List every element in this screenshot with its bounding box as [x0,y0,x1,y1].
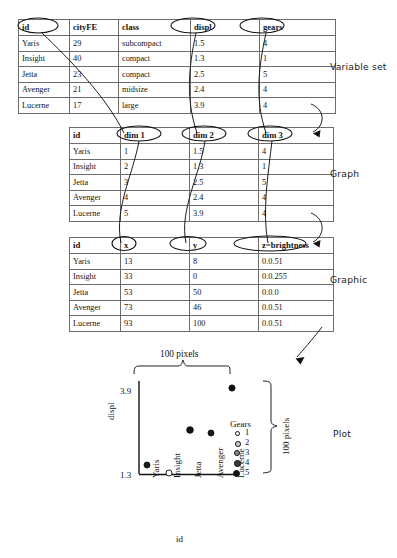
cell-dim2: 3.9 [190,206,259,222]
table-row: Lucerne 17 large 3.9 4 [19,98,336,114]
cell-x: 73 [121,300,190,316]
cell-id: Insight [70,269,121,285]
plot-width-caption: 100 pixels [160,349,198,359]
cell-displ: 1.5 [191,36,260,52]
table-row: Insight 33 0 0.0.255 [70,269,334,285]
cell-dim2: 2.5 [190,175,259,191]
cell-y: 0 [190,269,259,285]
plot-point-yaris [144,462,150,468]
cell-id: Avenger [19,82,70,98]
cell-y: 50 [190,285,259,301]
cell-y: 46 [190,300,259,316]
cell-cityfe: 21 [70,82,119,98]
cell-class: compact [119,51,191,67]
cell-dim1: 2 [121,159,190,175]
cell-dim2: 1.5 [190,144,259,160]
width-brace [134,360,230,374]
column-header-y: y [190,238,259,254]
cell-gears: 4 [260,98,336,114]
cell-dim2: 1.3 [190,159,259,175]
cell-cityfe: 23 [70,67,119,83]
cell-class: midsize [119,82,191,98]
legend-swatch-2 [235,441,241,447]
graph-table: id dim 1 dim 2 dim 3 Yaris 1 1.5 4 Insig… [69,127,334,222]
column-header-cityfe: cityFE [70,20,119,36]
cell-id: Jetta [70,175,121,191]
graphic-table: id x y z=brightness Yaris 13 8 0.0.51 In… [69,237,334,332]
cell-gears: 1 [260,51,336,67]
column-header-dim3: dim 3 [259,128,334,144]
table-row: Yaris 1 1.5 4 [70,144,334,160]
table-row: Lucerne 93 100 0.0.51 [70,316,334,332]
table-header-row: id x y z=brightness [70,238,334,254]
cell-cityfe: 17 [70,98,119,114]
y-axis-tick-low: 1.3 [120,470,131,480]
table-row: Avenger 73 46 0.0.51 [70,300,334,316]
plot-point-lucerne [229,385,235,391]
cell-x: 93 [121,316,190,332]
legend-label-5: 5 [245,467,249,477]
table-header-row: id dim 1 dim 2 dim 3 [70,128,334,144]
cell-x: 13 [121,254,190,270]
cell-dim1: 4 [121,190,190,206]
table-row: Avenger 21 midsize 2.4 4 [19,82,336,98]
cell-y: 100 [190,316,259,332]
plot-height-caption: 100 pixels [281,418,291,455]
cell-id: Lucerne [70,206,121,222]
legend-swatch-4 [234,460,241,467]
cell-id: Yaris [19,36,70,52]
plot-graphics [134,360,277,475]
table-row: Insight 40 compact 1.3 1 [19,51,336,67]
table-header-row: id cityFE class displ gears [19,20,336,36]
cell-id: Yaris [70,254,121,270]
cell-dim1: 1 [121,144,190,160]
cell-gears: 4 [260,82,336,98]
legend-label-3: 3 [245,447,249,457]
legend-label-4: 4 [245,457,249,467]
cell-dim3: 4 [259,190,334,206]
y-axis-tick-high: 3.9 [120,386,131,396]
legend-swatch-1 [235,431,240,436]
cell-class: subcompact [119,36,191,52]
height-brace [263,381,277,473]
diagram-canvas: id cityFE class displ gears Yaris 29 sub… [0,0,397,558]
column-header-class: class [119,20,191,36]
column-header-x: x [121,238,190,254]
plot-point-avenger [208,430,214,436]
column-header-id: id [70,238,121,254]
column-header-brightness: z=brightness [259,238,334,254]
cell-dim1: 3 [121,175,190,191]
legend-label-2: 2 [245,437,249,447]
stage-label-graph: Graph [330,168,359,179]
y-axis-title: displ [106,402,116,420]
cell-class: compact [119,67,191,83]
table-row: Lucerne 5 3.9 4 [70,206,334,222]
cell-dim2: 2.4 [190,190,259,206]
cell-cityfe: 29 [70,36,119,52]
cell-class: large [119,98,191,114]
legend-label-1: 1 [245,427,249,437]
cell-dim3: 4 [259,144,334,160]
cell-cityfe: 40 [70,51,119,67]
cell-dim3: 1 [259,159,334,175]
x-tick-label-insight: Insight [172,453,182,478]
cell-displ: 3.9 [191,98,260,114]
cell-id: Avenger [70,300,121,316]
cell-x: 33 [121,269,190,285]
column-header-dim1: dim 1 [121,128,190,144]
stage-label-plot: Plot [333,428,351,439]
x-tick-label-avenger: Avenger [215,448,225,478]
cell-id: Lucerne [19,98,70,114]
cell-id: Insight [19,51,70,67]
cell-dim3: 4 [259,206,334,222]
cell-gears: 5 [260,67,336,83]
cell-id: Avenger [70,190,121,206]
column-header-id: id [19,20,70,36]
stage-arrow-graphic-to-plot [297,327,322,357]
cell-displ: 2.5 [191,67,260,83]
column-header-displ: displ [191,20,260,36]
table-row: Jetta 3 2.5 5 [70,175,334,191]
column-header-gears: gears [260,20,336,36]
cell-displ: 1.3 [191,51,260,67]
table-row: Avenger 4 2.4 4 [70,190,334,206]
